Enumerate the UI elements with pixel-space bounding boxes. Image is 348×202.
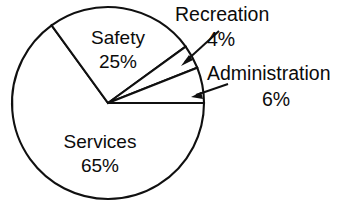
label-administration-name: Administration [207, 62, 331, 84]
label-safety-name: Safety [91, 27, 145, 48]
label-services-name: Services [64, 131, 137, 152]
label-recreation-percent: 4% [207, 28, 235, 50]
label-safety-percent: 25% [99, 51, 137, 72]
pie-chart: Safety 25% Services 65% Recreation 4% Ad… [0, 0, 348, 202]
pie-chart-svg: Safety 25% Services 65% Recreation 4% Ad… [0, 0, 348, 202]
label-services-percent: 65% [81, 155, 119, 176]
label-recreation-name: Recreation [175, 3, 269, 25]
label-administration-percent: 6% [262, 88, 290, 110]
